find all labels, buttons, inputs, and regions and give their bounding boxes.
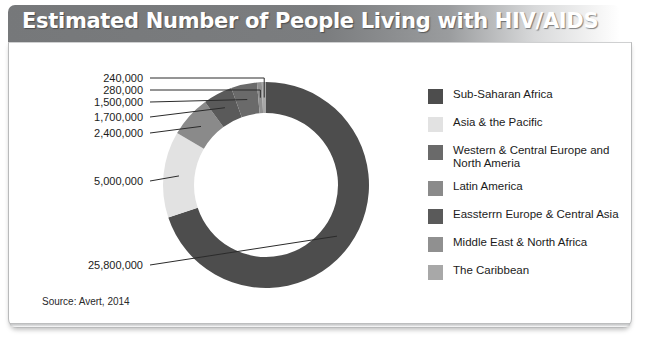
legend-item-label: The Caribbean bbox=[453, 264, 529, 277]
legend-item: Eassterrn Europe & Central Asia bbox=[428, 208, 628, 224]
donut-slices bbox=[163, 82, 369, 288]
legend-item: Sub-Saharan Africa bbox=[428, 88, 628, 104]
legend-item-label: Western & Central Europe and North Ameri… bbox=[453, 144, 628, 170]
legend-swatch-icon bbox=[428, 237, 443, 252]
legend-swatch-icon bbox=[428, 145, 443, 160]
chart-legend: Sub-Saharan AfricaAsia & the PacificWest… bbox=[428, 88, 628, 292]
legend-swatch-icon bbox=[428, 265, 443, 280]
legend-swatch-icon bbox=[428, 89, 443, 104]
legend-item-label: Eassterrn Europe & Central Asia bbox=[453, 208, 619, 221]
value-label: 1,700,000 bbox=[94, 111, 143, 123]
source-note: Source: Avert, 2014 bbox=[42, 296, 130, 307]
legend-swatch-icon bbox=[428, 209, 443, 224]
value-label: 2,400,000 bbox=[94, 127, 143, 139]
legend-item: Middle East & North Africa bbox=[428, 236, 628, 252]
legend-item: Asia & the Pacific bbox=[428, 116, 628, 132]
legend-item: Western & Central Europe and North Ameri… bbox=[428, 144, 628, 170]
value-label: 280,000 bbox=[103, 84, 143, 96]
legend-item-label: Asia & the Pacific bbox=[453, 116, 542, 129]
legend-item: The Caribbean bbox=[428, 264, 628, 280]
legend-item: Latin America bbox=[428, 180, 628, 196]
value-label: 5,000,000 bbox=[94, 175, 143, 187]
legend-item-label: Sub-Saharan Africa bbox=[453, 88, 553, 101]
value-label: 1,500,000 bbox=[94, 96, 143, 108]
value-labels: 240,000280,0001,500,0001,700,0002,400,00… bbox=[88, 72, 143, 271]
legend-swatch-icon bbox=[428, 181, 443, 196]
legend-swatch-icon bbox=[428, 117, 443, 132]
donut-slice bbox=[163, 133, 204, 218]
value-label: 240,000 bbox=[103, 72, 143, 84]
value-label: 25,800,000 bbox=[88, 259, 143, 271]
legend-item-label: Latin America bbox=[453, 180, 523, 193]
legend-item-label: Middle East & North Africa bbox=[453, 236, 587, 249]
